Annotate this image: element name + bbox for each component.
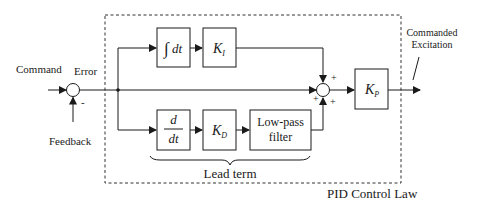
kd-subscript: D: [220, 131, 227, 140]
lead-term-label: Lead term: [203, 166, 256, 181]
pid-block-diagram: PID Control Law Command Error - Feedback…: [0, 0, 483, 207]
ki-base: K: [212, 41, 223, 56]
command-label: Command: [16, 63, 62, 75]
feedback-sign: -: [81, 96, 85, 108]
output-leader-line: [413, 57, 419, 80]
sign-top: +: [331, 72, 337, 83]
integral-variable: dt: [172, 41, 183, 56]
output-label-line2: Excitation: [411, 39, 452, 50]
derivative-denominator: dt: [168, 131, 179, 146]
lead-term-brace: [150, 156, 310, 165]
derivative-branch: [118, 90, 156, 130]
pid-title: PID Control Law: [327, 186, 418, 201]
kd-base: K: [211, 123, 222, 138]
ki-to-summer: [236, 48, 323, 82]
derivative-numerator: d: [170, 112, 177, 127]
output-label-line1: Commanded: [406, 27, 457, 38]
ki-subscript: I: [221, 49, 225, 58]
kp-subscript: P: [373, 90, 379, 99]
filter-label-line2: filter: [269, 130, 292, 144]
filter-label-line1: Low-pass: [257, 115, 304, 129]
sign-bottom-left: +: [313, 93, 319, 104]
error-summing-junction: [67, 84, 80, 97]
kp-base: K: [364, 82, 375, 97]
feedback-label: Feedback: [49, 135, 92, 147]
sign-bottom-right: +: [330, 96, 336, 107]
integral-branch: [118, 48, 156, 90]
error-label: Error: [74, 65, 98, 77]
